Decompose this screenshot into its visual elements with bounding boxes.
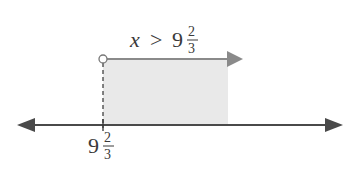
tick-whole-text: 9 xyxy=(88,133,99,158)
shaded-region xyxy=(103,59,228,124)
tick-label: 9 2 3 xyxy=(88,130,114,162)
right-arrow-icon xyxy=(325,118,343,132)
tick-denominator-text: 3 xyxy=(104,147,111,162)
left-arrow-icon xyxy=(17,118,35,132)
open-circle-icon xyxy=(99,55,107,63)
ray-arrowhead-icon xyxy=(227,51,243,67)
tick-numerator-text: 2 xyxy=(104,130,111,145)
denominator-text: 3 xyxy=(188,41,195,56)
number-line-diagram: x > 9 2 3 9 2 3 xyxy=(0,0,356,192)
inequality-label: x > 9 2 3 xyxy=(129,24,198,56)
operator-text: > xyxy=(150,27,162,52)
whole-number-text: 9 xyxy=(172,27,183,52)
numerator-text: 2 xyxy=(188,24,195,39)
variable-text: x xyxy=(129,27,140,52)
